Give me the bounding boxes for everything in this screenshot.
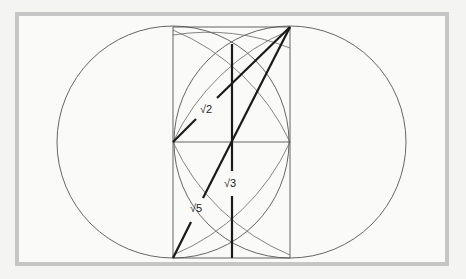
- root-rectangle-diagram: √2 √3 √5: [0, 0, 466, 279]
- sqrt5-label: √5: [190, 202, 202, 214]
- sqrt3-label: √3: [224, 177, 236, 189]
- sqrt2-label: √2: [200, 103, 212, 115]
